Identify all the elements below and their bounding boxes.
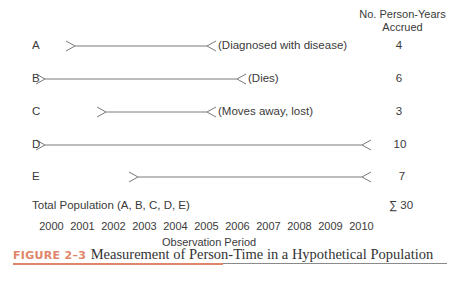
- end-marker-icon: [237, 74, 246, 84]
- subject-label-d: D: [32, 138, 40, 150]
- end-marker-icon: [207, 41, 216, 51]
- person-years-e: 7: [387, 170, 417, 182]
- subject-label-c: C: [32, 105, 40, 117]
- annotation-b: (Dies): [248, 72, 279, 84]
- person-years-a: 4: [384, 39, 414, 51]
- subject-label-b: B: [32, 72, 40, 84]
- year-tick-2007: 2007: [253, 220, 284, 232]
- year-tick-2006: 2006: [222, 220, 253, 232]
- figure-title: Measurement of Person-Time in a Hypothet…: [91, 246, 434, 262]
- timeline-d: [36, 140, 371, 150]
- person-years-d: 10: [385, 138, 415, 150]
- caption-rule: [13, 263, 223, 265]
- total-population-label: Total Population (A, B, C, D, E): [32, 199, 190, 211]
- start-marker-icon: [97, 107, 106, 117]
- year-tick-2008: 2008: [284, 220, 315, 232]
- year-tick-2002: 2002: [98, 220, 129, 232]
- subject-label-e: E: [32, 170, 40, 182]
- timeline-b: [36, 74, 246, 84]
- timeline-e: [129, 172, 371, 182]
- annotation-c: (Moves away, lost): [218, 105, 313, 117]
- total-person-years: ∑ 30: [383, 199, 419, 211]
- timeline-c: [97, 107, 216, 117]
- caption-rule-extension: [223, 263, 447, 264]
- year-tick-2001: 2001: [67, 220, 98, 232]
- end-marker-icon: [207, 107, 216, 117]
- year-tick-2003: 2003: [129, 220, 160, 232]
- figure-number: FIGURE 2–3: [13, 249, 86, 262]
- year-tick-2005: 2005: [191, 220, 222, 232]
- year-tick-2009: 2009: [315, 220, 346, 232]
- person-years-c: 3: [384, 105, 414, 117]
- year-tick-2000: 2000: [36, 220, 67, 232]
- year-tick-2004: 2004: [160, 220, 191, 232]
- start-marker-icon: [66, 41, 75, 51]
- annotation-a: (Diagnosed with disease): [218, 39, 347, 51]
- start-marker-icon: [129, 172, 138, 182]
- subject-label-a: A: [32, 39, 40, 51]
- figure-caption: FIGURE 2–3 Measurement of Person-Time in…: [13, 245, 433, 263]
- timeline-a: [66, 41, 216, 51]
- end-marker-icon: [362, 140, 371, 150]
- person-years-b: 6: [384, 72, 414, 84]
- year-tick-2010: 2010: [346, 220, 377, 232]
- end-marker-icon: [362, 172, 371, 182]
